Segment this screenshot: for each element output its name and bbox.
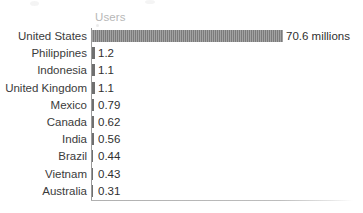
bar-row: United Kingdom1.1 [0,80,363,97]
bar [92,133,94,145]
value-label: 1.1 [98,81,114,95]
scan-artifact-icon [96,24,99,27]
bar-row: Indonesia1.1 [0,62,363,79]
category-label: Brazil [58,149,87,163]
value-label: 1.1 [98,63,114,77]
bar [92,116,94,128]
value-label: 0.62 [98,115,120,129]
category-label: Indonesia [37,63,87,77]
category-label: Philippines [31,46,87,60]
bar [92,150,93,162]
bar [92,82,95,94]
category-label: India [62,132,87,146]
bar [92,47,95,59]
bar-row: Philippines1.2 [0,45,363,62]
category-label: Canada [47,115,87,129]
bar-row: United States70.6 millions [0,28,363,45]
category-label: Australia [42,184,87,198]
bar-row: Canada0.62 [0,114,363,131]
bar [92,185,93,197]
bar [92,168,93,180]
value-label: 0.43 [98,167,120,181]
bar-row: Brazil0.44 [0,148,363,165]
bar-row: Australia0.31 [0,183,363,200]
category-label: United States [18,29,87,43]
bar [92,30,283,42]
value-label: 1.2 [98,46,114,60]
scan-artifact-icon [30,1,39,6]
bar-row: India0.56 [0,131,363,148]
value-label: 0.79 [98,98,120,112]
bottom-rule [91,200,353,201]
category-label: Mexico [51,98,87,112]
bar-row: Vietnam0.43 [0,166,363,183]
column-header: Users [95,11,126,23]
bar-chart: Users United States70.6 millionsPhilippi… [0,0,363,213]
bar [92,99,94,111]
value-label: 0.56 [98,132,120,146]
bar-row: Mexico0.79 [0,97,363,114]
value-label: 70.6 millions [286,29,350,43]
bar [92,64,95,76]
category-label: Vietnam [45,167,87,181]
scan-artifact-icon [145,0,155,4]
category-label: United Kingdom [5,81,87,95]
bar-rows: United States70.6 millionsPhilippines1.2… [0,28,363,200]
value-label: 0.31 [98,184,120,198]
value-label: 0.44 [98,149,120,163]
